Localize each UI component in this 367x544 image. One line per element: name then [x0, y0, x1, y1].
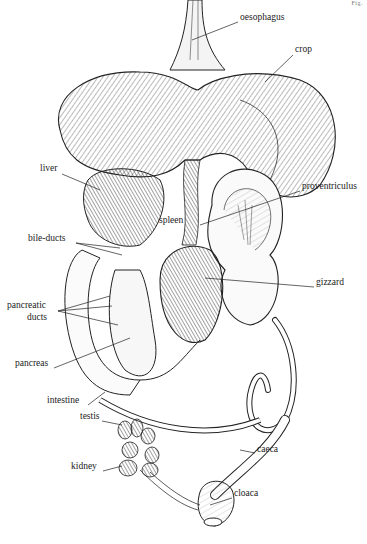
duct-column — [182, 160, 200, 245]
label-crop: crop — [295, 44, 312, 55]
label-oesophagus: oesophagus — [240, 12, 284, 23]
label-pancreatic: pancreatic — [7, 300, 46, 311]
label-gizzard: gizzard — [316, 277, 344, 288]
label-pancreas: pancreas — [15, 358, 48, 369]
label-cloaca: cloaca — [234, 488, 258, 499]
label-proventriculus: proventriculus — [302, 181, 357, 192]
label-caeca: caeca — [257, 444, 278, 455]
label-ducts: ducts — [27, 312, 47, 323]
label-testis: testis — [80, 411, 100, 422]
gizzard-organ — [160, 246, 223, 342]
cloaca-organ — [198, 481, 234, 526]
label-bile-ducts: bile-ducts — [28, 233, 65, 244]
figure-number: Fig. — [351, 0, 363, 6]
label-kidney: kidney — [71, 461, 97, 472]
liver-organ — [84, 169, 164, 247]
label-spleen: spleen — [159, 215, 183, 226]
anatomical-illustration — [0, 0, 367, 544]
oesophagus-organ — [170, 0, 225, 70]
label-intestine: intestine — [47, 395, 79, 406]
label-liver: liver — [40, 163, 57, 174]
